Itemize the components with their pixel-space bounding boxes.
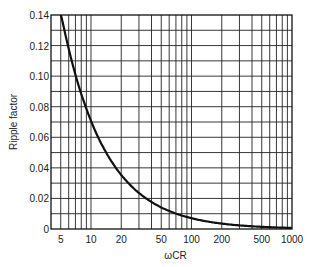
y-tick-label: 0.04 — [30, 163, 50, 174]
x-tick-label: 5 — [58, 234, 64, 245]
y-tick-label: 0.06 — [30, 132, 50, 143]
x-tick-label: 200 — [213, 234, 230, 245]
x-tick-label: 1000 — [281, 234, 304, 245]
x-tick-label: 50 — [156, 234, 168, 245]
y-axis-ticks: 00.020.040.060.080.100.120.14 — [30, 10, 50, 235]
y-tick-label: 0.08 — [30, 102, 50, 113]
y-axis-label: Ripple factor — [8, 93, 19, 150]
x-axis-ticks: 51020501002005001000 — [58, 234, 304, 245]
x-tick-label: 500 — [253, 234, 270, 245]
ripple-factor-chart: 51020501002005001000 00.020.040.060.080.… — [0, 0, 312, 267]
x-axis-label: ωCR — [164, 250, 186, 261]
y-tick-label: 0 — [43, 224, 49, 235]
y-tick-label: 0.12 — [30, 41, 50, 52]
y-tick-label: 0.02 — [30, 193, 50, 204]
y-tick-label: 0.14 — [30, 10, 50, 21]
grid-lines — [51, 15, 292, 229]
x-tick-label: 100 — [183, 234, 200, 245]
x-tick-label: 10 — [85, 234, 97, 245]
x-tick-label: 20 — [116, 234, 128, 245]
y-tick-label: 0.10 — [30, 71, 50, 82]
